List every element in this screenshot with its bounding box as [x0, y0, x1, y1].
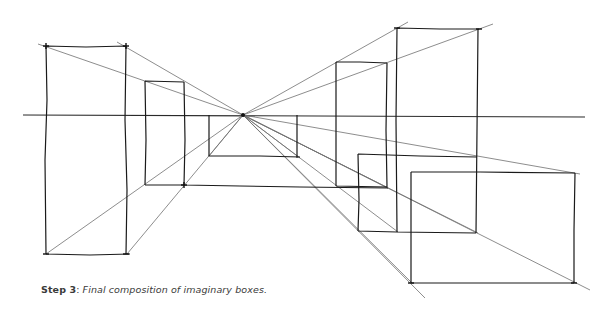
box-left-small [145, 81, 388, 188]
vanishing-point-marker [241, 113, 245, 117]
box-right-low-front [411, 172, 575, 283]
corner-marks [43, 28, 577, 283]
figure-caption: Step 3: Final composition of imaginary b… [41, 284, 267, 295]
box-right-mid [336, 62, 387, 187]
box-right-tall [396, 28, 479, 233]
sketched-boxes [45, 28, 575, 283]
perspective-guide-lines [38, 22, 590, 298]
caption-description: Final composition of imaginary boxes. [83, 284, 267, 295]
perspective-drawing [0, 0, 613, 314]
box-left-tall [45, 46, 130, 255]
box-right-low-back [358, 154, 477, 232]
horizon-line [23, 115, 585, 117]
caption-step-label: Step 3 [41, 284, 76, 295]
